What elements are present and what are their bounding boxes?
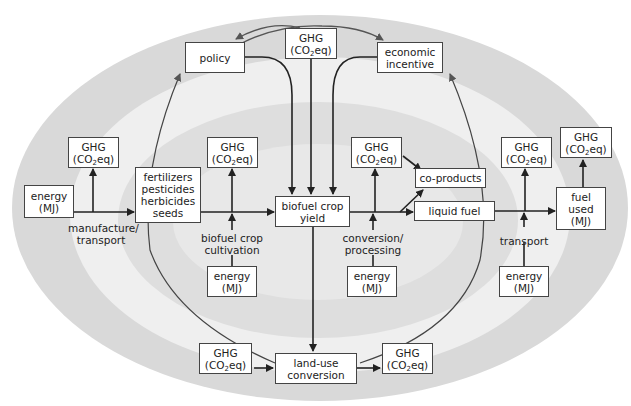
ghg-box-fuel-use: GHG (CO2eq) [560,127,612,158]
ghg-unit: (CO2eq) [565,143,606,155]
energy-title: energy [506,270,543,282]
energy-box-conversion: energy (MJ) [347,266,397,297]
fuel-used-line2: used [568,203,593,215]
herbicides-label: herbicides [141,195,195,207]
transport-label: transport [494,235,554,247]
policy-label: policy [200,52,231,64]
co-products-box: co-products [415,168,486,188]
energy-title: energy [31,190,68,202]
ghg-unit: (CO2eq) [356,153,397,165]
energy-title: energy [354,270,391,282]
ghg-title: GHG [395,347,419,359]
ghg-unit: (CO2eq) [506,153,547,165]
economic-incentive-box: economic incentive [377,42,443,73]
ghg-box-land-use-out: GHG (CO2eq) [382,343,433,374]
ghg-box-manufacture: GHG (CO2eq) [68,137,119,168]
economic-incentive-line2: incentive [386,58,434,70]
ghg-box-transport: GHG (CO2eq) [501,137,552,168]
ghg-title: GHG [364,141,388,153]
ghg-title: GHG [514,141,538,153]
crop-cultivation-label: biofuel crop cultivation [196,232,268,256]
ghg-box-land-use-in: GHG (CO2eq) [199,343,252,374]
pesticides-label: pesticides [142,183,195,195]
conversion-processing-label: conversion/ processing [340,232,406,256]
co-products-label: co-products [419,172,481,184]
ghg-unit: (CO2eq) [212,153,253,165]
ghg-title: GHG [299,32,323,44]
ghg-title: GHG [81,141,105,153]
policy-box: policy [185,42,245,73]
ghg-unit: (CO2eq) [387,359,428,371]
manufacture-transport-label: manufacture/ transport [68,222,134,246]
ghg-box-conversion: GHG (CO2eq) [351,137,402,168]
biofuel-crop-yield-line2: yield [300,212,325,224]
ghg-title: GHG [574,131,598,143]
ghg-box-cultivation: GHG (CO2eq) [207,137,258,168]
energy-unit: (MJ) [514,282,534,294]
ghg-title: GHG [220,141,244,153]
energy-box-cultivation: energy (MJ) [207,266,257,297]
ghg-unit: (CO2eq) [205,359,246,371]
ghg-unit: (CO2eq) [290,44,331,56]
land-use-line1: land-use [293,357,338,369]
land-use-line2: conversion [287,369,344,381]
energy-box-transport: energy (MJ) [499,266,549,297]
fuel-used-line1: fuel [571,191,591,203]
land-use-conversion-box: land-use conversion [275,353,357,384]
energy-box-manufacture: energy (MJ) [24,185,74,218]
economic-incentive-line1: economic [385,46,436,58]
ghg-box-top: GHG (CO2eq) [285,28,337,59]
biofuel-crop-yield-line1: biofuel crop [281,200,343,212]
energy-unit: (MJ) [39,202,59,214]
energy-unit: (MJ) [222,282,242,294]
fertilizers-label: fertilizers [143,171,192,183]
fuel-used-line3: (MJ) [571,215,591,227]
energy-unit: (MJ) [362,282,382,294]
seeds-label: seeds [153,207,184,219]
ghg-unit: (CO2eq) [73,153,114,165]
biofuel-crop-yield-box: biofuel crop yield [275,196,350,227]
inputs-box: fertilizers pesticides herbicides seeds [135,167,201,223]
fuel-used-box: fuel used (MJ) [556,187,606,230]
energy-title: energy [214,270,251,282]
liquid-fuel-label: liquid fuel [429,205,481,217]
liquid-fuel-box: liquid fuel [414,201,495,221]
ghg-title: GHG [213,347,237,359]
